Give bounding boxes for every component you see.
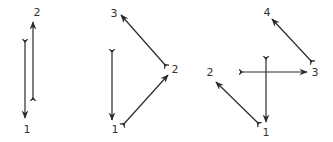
node-label: 1: [263, 126, 270, 139]
arrow-edge: [272, 19, 312, 62]
node-label: 1: [112, 123, 119, 136]
arrow-edge: [123, 75, 168, 125]
edges-layer: [25, 15, 312, 125]
arrow-edge: [216, 82, 259, 124]
node-label: 2: [207, 66, 214, 79]
diagram-canvas: 121231234: [0, 0, 333, 142]
node-label: 1: [24, 123, 31, 136]
diagram-1-edges: [25, 22, 33, 118]
diagram-2-labels: 123: [111, 7, 179, 136]
diagram-2-edges: [112, 15, 168, 125]
node-label: 3: [312, 66, 319, 79]
arrow-edge: [121, 15, 166, 66]
node-label: 2: [172, 63, 179, 76]
diagram-3-edges: [216, 19, 312, 124]
node-label: 4: [264, 6, 271, 19]
diagram-1-labels: 12: [24, 6, 41, 136]
node-label: 3: [111, 7, 118, 20]
node-label: 2: [34, 6, 41, 19]
